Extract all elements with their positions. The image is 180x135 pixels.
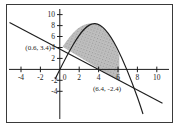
shaded-region [63,23,120,81]
x-tick-label: 8 [136,73,140,82]
y-tick-label: 2 [51,54,55,63]
x-tick-label: -4 [18,73,24,82]
y-tick-label: 8 [51,21,55,30]
x-tick-label: -2 [37,73,43,82]
y-tick-label: 4 [51,43,55,52]
x-tick-label: 2 [77,73,81,82]
coordinate-plot: -4 -2 0 2 4 6 8 10 10 8 6 4 2 -2 [7,5,172,122]
x-tick-label: 6 [116,73,120,82]
figure-root: -4 -2 0 2 4 6 8 10 10 8 6 4 2 -2 [0,0,180,135]
y-tick-labels: 10 8 6 4 2 -2 -4 [48,10,58,96]
x-tick-labels: -4 -2 0 2 4 6 8 10 [18,73,161,82]
plot-frame: -4 -2 0 2 4 6 8 10 10 8 6 4 2 -2 [6,4,173,123]
y-tick-label: -2 [51,76,57,85]
x-tick-label: 0 [63,73,67,82]
x-tick-label: 10 [153,73,161,82]
point-label-a: (0.6, 3.4) [25,44,51,52]
y-tick-label: 10 [48,10,56,19]
point-label-b: (6.4, -2.4) [93,85,122,93]
y-tick-label: -4 [51,87,57,96]
y-tick-label: 6 [51,32,55,41]
x-tick-label: 4 [97,73,101,82]
